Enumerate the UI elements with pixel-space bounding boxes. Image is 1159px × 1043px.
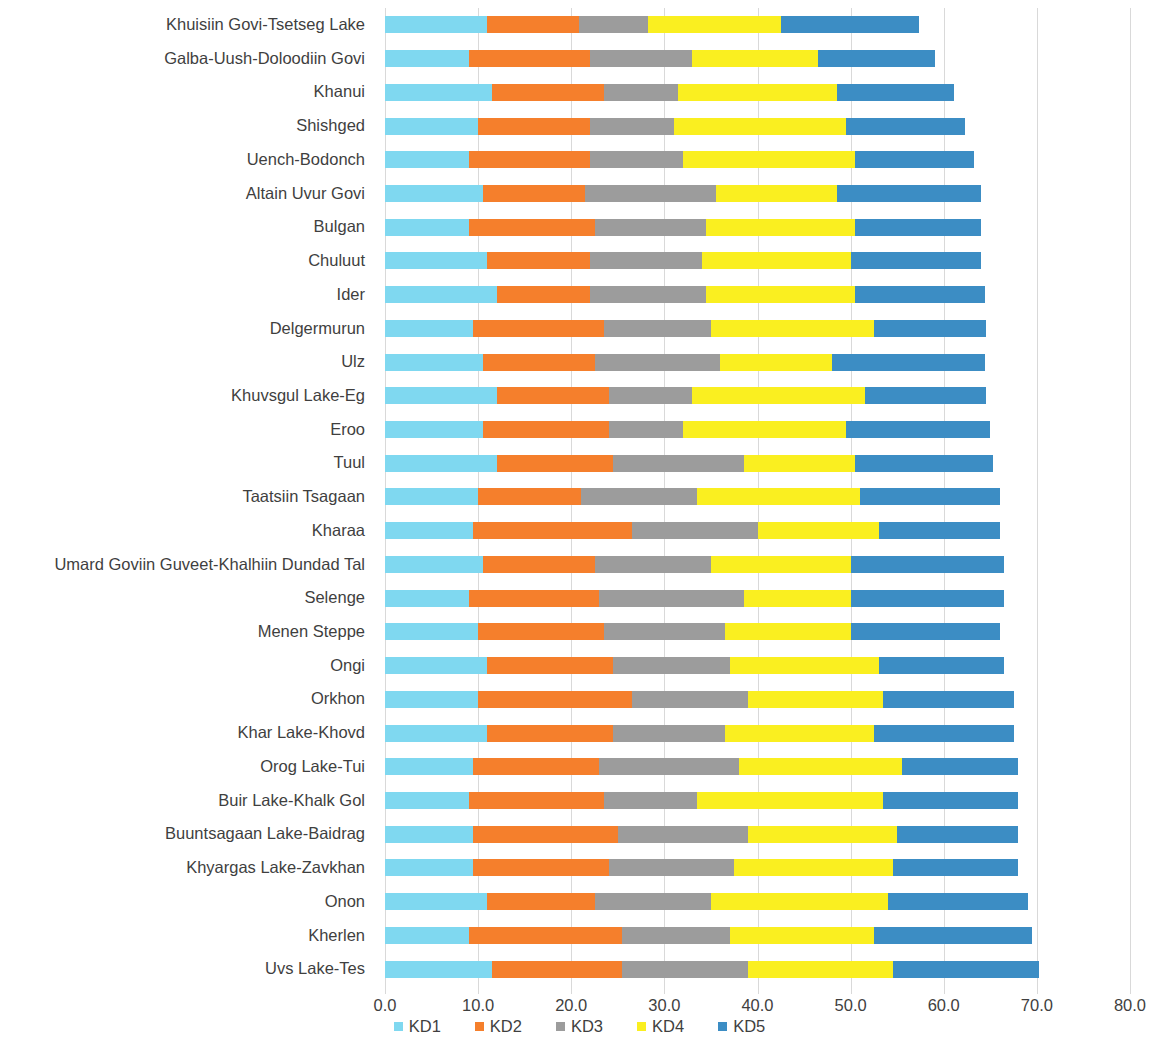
x-tick-label: 60.0 (928, 996, 960, 1015)
bar-row (385, 682, 1130, 716)
legend-item-kd3[interactable]: KD3 (556, 1017, 603, 1036)
bar-segment-kd3 (632, 522, 758, 539)
category-label: Buuntsagaan Lake-Baidrag (0, 817, 375, 851)
stacked-bar (385, 84, 1130, 101)
bar-row (385, 75, 1130, 109)
bar-segment-kd2 (478, 118, 590, 135)
category-label: Shishged (0, 109, 375, 143)
legend-label: KD1 (409, 1017, 441, 1036)
bar-segment-kd2 (497, 286, 590, 303)
category-label: Ulz (0, 345, 375, 379)
bar-segment-kd2 (469, 590, 599, 607)
bar-row (385, 177, 1130, 211)
bar-segment-kd5 (897, 826, 1018, 843)
bar-segment-kd4 (748, 961, 892, 978)
bar-segment-kd3 (609, 387, 693, 404)
bar-segment-kd5 (846, 421, 990, 438)
bar-segment-kd4 (744, 455, 856, 472)
category-label: Khuvsgul Lake-Eg (0, 379, 375, 413)
bar-segment-kd1 (385, 556, 483, 573)
bar-segment-kd4 (734, 859, 892, 876)
bar-segment-kd1 (385, 623, 478, 640)
bar-segment-kd1 (385, 859, 473, 876)
bar-segment-kd1 (385, 961, 492, 978)
bar-row (385, 514, 1130, 548)
stacked-bar (385, 826, 1130, 843)
category-label: Galba-Uush-Doloodiin Govi (0, 42, 375, 76)
bar-segment-kd5 (818, 50, 935, 67)
legend-label: KD4 (652, 1017, 684, 1036)
bar-segment-kd2 (469, 792, 604, 809)
bar-segment-kd4 (683, 421, 846, 438)
bar-segment-kd3 (599, 758, 739, 775)
category-label: Khuisiin Govi-Tsetseg Lake (0, 8, 375, 42)
legend-item-kd2[interactable]: KD2 (475, 1017, 522, 1036)
stacked-bar (385, 354, 1130, 371)
bar-rows (385, 8, 1130, 986)
bar-segment-kd4 (706, 286, 855, 303)
category-label: Khanui (0, 75, 375, 109)
category-label: Onon (0, 885, 375, 919)
stacked-bar (385, 859, 1130, 876)
bar-segment-kd3 (590, 252, 702, 269)
bar-segment-kd4 (697, 792, 883, 809)
stacked-bar (385, 455, 1130, 472)
bar-segment-kd4 (711, 893, 888, 910)
bar-segment-kd4 (744, 590, 851, 607)
bar-segment-kd3 (613, 725, 725, 742)
stacked-bar (385, 387, 1130, 404)
x-tick-mark (385, 986, 386, 994)
bar-segment-kd5 (874, 320, 986, 337)
bar-segment-kd2 (478, 488, 580, 505)
bar-segment-kd3 (622, 961, 748, 978)
bar-segment-kd1 (385, 286, 497, 303)
stacked-bar (385, 421, 1130, 438)
bar-row (385, 885, 1130, 919)
bar-segment-kd5 (893, 859, 1019, 876)
bar-segment-kd3 (609, 421, 684, 438)
bar-segment-kd1 (385, 354, 483, 371)
bar-row (385, 851, 1130, 885)
bar-segment-kd1 (385, 657, 487, 674)
bar-segment-kd5 (883, 691, 1013, 708)
bar-segment-kd4 (748, 691, 883, 708)
bar-segment-kd1 (385, 387, 497, 404)
category-label: Bulgan (0, 210, 375, 244)
x-tick-mark (1130, 986, 1131, 994)
legend-item-kd5[interactable]: KD5 (718, 1017, 765, 1036)
bar-segment-kd5 (874, 927, 1032, 944)
stacked-bar (385, 252, 1130, 269)
bar-segment-kd2 (497, 387, 609, 404)
bar-segment-kd4 (725, 623, 851, 640)
bar-segment-kd2 (469, 927, 623, 944)
bar-segment-kd3 (618, 826, 748, 843)
bar-segment-kd2 (487, 893, 594, 910)
bar-segment-kd4 (678, 84, 836, 101)
stacked-bar (385, 16, 1130, 33)
legend-swatch-icon (556, 1022, 565, 1031)
category-axis: Khuisiin Govi-Tsetseg LakeGalba-Uush-Dol… (0, 8, 375, 986)
bar-segment-kd4 (683, 151, 855, 168)
legend-label: KD3 (571, 1017, 603, 1036)
bar-segment-kd1 (385, 691, 478, 708)
x-tick-label: 80.0 (1114, 996, 1146, 1015)
bar-row (385, 919, 1130, 953)
legend-item-kd1[interactable]: KD1 (394, 1017, 441, 1036)
category-label: Selenge (0, 581, 375, 615)
legend-swatch-icon (475, 1022, 484, 1031)
bar-segment-kd5 (837, 185, 981, 202)
bar-segment-kd4 (730, 927, 874, 944)
bar-row (385, 244, 1130, 278)
bar-segment-kd1 (385, 421, 483, 438)
bar-segment-kd1 (385, 16, 487, 33)
legend-label: KD2 (490, 1017, 522, 1036)
bar-segment-kd3 (604, 623, 725, 640)
bar-segment-kd5 (902, 758, 1018, 775)
bar-segment-kd2 (473, 320, 603, 337)
stacked-bar (385, 657, 1130, 674)
bar-row (385, 278, 1130, 312)
bar-segment-kd4 (730, 657, 879, 674)
bar-segment-kd3 (590, 286, 706, 303)
bar-row (385, 109, 1130, 143)
legend-item-kd4[interactable]: KD4 (637, 1017, 684, 1036)
